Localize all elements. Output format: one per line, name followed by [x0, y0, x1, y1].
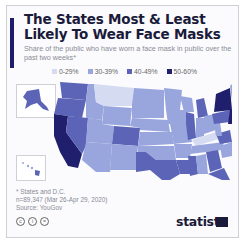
footnote-states: * States and D.C.	[16, 188, 107, 196]
title-accent-bar	[10, 18, 14, 68]
legend-label: 50-60%	[174, 68, 197, 75]
cc-icon[interactable]: c	[16, 217, 25, 226]
legend-swatch	[167, 69, 172, 74]
license-icons: c i =	[16, 217, 49, 226]
legend-swatch	[127, 69, 132, 74]
footnote-sample: n=89,347 (Mar 26-Apr 29, 2020)	[16, 196, 107, 204]
chart-title: The States Most & Least Likely To Wear F…	[24, 12, 234, 41]
legend-swatch	[88, 69, 93, 74]
footnotes: * States and D.C. n=89,347 (Mar 26-Apr 2…	[16, 188, 107, 212]
legend-swatch	[52, 69, 57, 74]
legend: 0-29% 30-39% 40-49% 50-60%	[52, 68, 197, 75]
legend-item: 40-49%	[127, 68, 157, 75]
statista-logo-icon	[216, 217, 228, 227]
legend-item: 0-29%	[52, 68, 79, 75]
legend-item: 30-39%	[88, 68, 118, 75]
chart-subtitle: Share of the public who have worn a face…	[24, 44, 234, 62]
legend-item: 50-60%	[167, 68, 197, 75]
legend-label: 40-49%	[134, 68, 157, 75]
by-icon[interactable]: i	[28, 217, 37, 226]
legend-label: 0-29%	[59, 68, 79, 75]
nd-icon[interactable]: =	[40, 217, 49, 226]
footnote-source: Source: YouGov	[16, 204, 107, 212]
legend-label: 30-39%	[95, 68, 118, 75]
us-map	[16, 80, 232, 180]
